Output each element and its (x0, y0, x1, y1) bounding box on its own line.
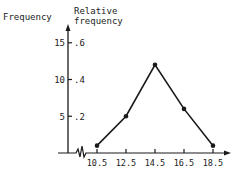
data-point (182, 107, 187, 112)
series-line (97, 65, 213, 146)
x-tick-label: 16.5 (174, 158, 194, 168)
data-series (95, 63, 216, 148)
y2-tick-label: .4 (74, 75, 85, 85)
x-tick-label: 10.5 (87, 158, 107, 168)
x-tick-label: 18.5 (203, 158, 223, 168)
y-tick-label: 5 (60, 112, 65, 122)
x-tick-label: 12.5 (116, 158, 136, 168)
y-tick-label: 15 (54, 38, 65, 48)
axis-break-icon (58, 146, 226, 157)
y-axis-title: Frequency (3, 12, 52, 22)
data-point (153, 63, 158, 68)
y2-axis-title-line1: Relative (74, 6, 117, 16)
data-point (211, 143, 216, 148)
y2-tick-label: .2 (74, 112, 85, 122)
x-tick-label: 14.5 (145, 158, 165, 168)
y-axis-arrow-icon (66, 24, 71, 31)
y2-tick-label: .6 (74, 38, 85, 48)
data-point (95, 143, 100, 148)
x-axis-arrow-icon (224, 151, 231, 156)
y-axis: 5.210.415.6 (54, 24, 85, 153)
y2-axis-title-line2: frequency (74, 16, 123, 26)
frequency-polygon-chart: Frequency Relative frequency 5.210.415.6… (0, 0, 243, 177)
y-tick-label: 10 (54, 75, 65, 85)
data-point (124, 114, 129, 119)
x-axis: 10.512.514.516.518.5 (58, 146, 231, 168)
